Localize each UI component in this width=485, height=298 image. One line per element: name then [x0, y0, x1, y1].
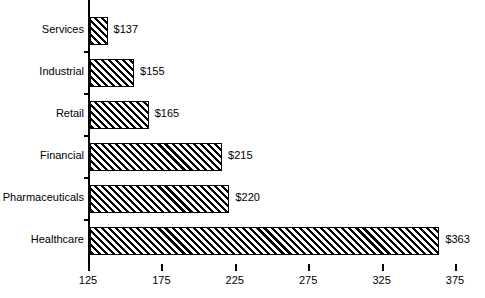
bar-row: Financial$215 — [90, 136, 457, 178]
bar — [90, 227, 439, 255]
bar — [90, 59, 134, 87]
bar-value-label: $220 — [235, 191, 259, 203]
bar — [90, 17, 108, 45]
bar-value-label: $215 — [228, 149, 252, 161]
bar-row: Services$137 — [90, 10, 457, 52]
category-label-wrap: Industrial — [0, 52, 84, 94]
plot-area: Services$137Industrial$155Retail$165Fina… — [88, 0, 457, 264]
x-tick-label: 125 — [58, 274, 118, 286]
bar — [90, 185, 229, 213]
x-tick-label: 325 — [352, 274, 412, 286]
bar-row: Healthcare$363 — [90, 220, 457, 262]
x-tick-label: 225 — [205, 274, 265, 286]
category-label: Healthcare — [0, 233, 84, 245]
x-tick-label: 275 — [278, 274, 338, 286]
x-tick — [235, 264, 237, 271]
bar-row: Retail$165 — [90, 94, 457, 136]
bar-value-label: $363 — [445, 233, 469, 245]
bar-row: Pharmaceuticals$220 — [90, 178, 457, 220]
x-tick — [161, 264, 163, 271]
category-label-wrap: Healthcare — [0, 220, 84, 262]
bar-value-label: $165 — [155, 107, 179, 119]
category-label: Retail — [0, 107, 84, 119]
category-label-wrap: Pharmaceuticals — [0, 178, 84, 220]
x-tick — [382, 264, 384, 271]
category-label: Services — [0, 23, 84, 35]
bar — [90, 101, 149, 129]
x-tick-label: 375 — [425, 274, 485, 286]
x-tick-label: 175 — [131, 274, 191, 286]
bar-value-label: $137 — [114, 23, 138, 35]
category-label-wrap: Financial — [0, 136, 84, 178]
x-tick — [455, 264, 457, 271]
bar-value-label: $155 — [140, 65, 164, 77]
x-tick — [88, 264, 90, 271]
x-tick — [308, 264, 310, 271]
category-label: Financial — [0, 149, 84, 161]
bar-row: Industrial$155 — [90, 52, 457, 94]
category-label-wrap: Retail — [0, 94, 84, 136]
bar — [90, 143, 222, 171]
bar-chart: Services$137Industrial$155Retail$165Fina… — [0, 0, 485, 298]
category-label: Industrial — [0, 65, 84, 77]
y-axis-top-stub — [88, 0, 90, 10]
x-axis: 125175225275325375 — [86, 264, 457, 266]
category-label-wrap: Services — [0, 10, 84, 52]
category-label: Pharmaceuticals — [0, 191, 84, 203]
